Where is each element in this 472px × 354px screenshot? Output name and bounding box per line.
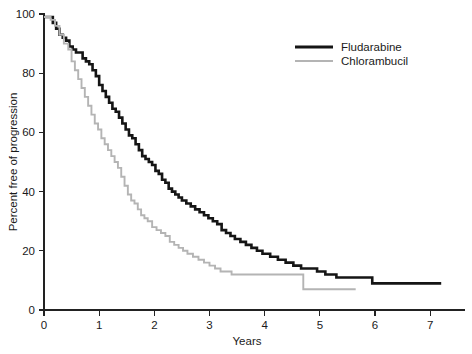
y-tick-label: 80 <box>22 67 35 79</box>
y-tick-label: 20 <box>22 245 35 257</box>
legend-label-chlorambucil: Chlorambucil <box>341 55 408 67</box>
y-tick-label: 40 <box>22 186 35 198</box>
x-tick-label: 1 <box>96 319 102 331</box>
x-axis-title: Years <box>233 335 262 347</box>
y-tick-label: 60 <box>22 126 35 138</box>
km-survival-figure: 020406080100 01234567 FludarabineChloram… <box>0 0 472 354</box>
x-tick-label: 3 <box>206 319 212 331</box>
x-tick-label: 0 <box>41 319 47 331</box>
y-tick-label: 0 <box>29 304 35 316</box>
legend-label-fludarabine: Fludarabine <box>341 41 402 53</box>
y-tick-label: 100 <box>16 8 35 20</box>
x-tick-label: 6 <box>372 319 378 331</box>
x-tick-label: 5 <box>317 319 323 331</box>
survival-plot-svg: 020406080100 01234567 FludarabineChloram… <box>0 0 472 354</box>
x-tick-label: 7 <box>427 319 433 331</box>
x-tick-label: 4 <box>261 319 268 331</box>
x-tick-label: 2 <box>151 319 157 331</box>
y-axis-title: Percent free of progression <box>7 93 19 232</box>
